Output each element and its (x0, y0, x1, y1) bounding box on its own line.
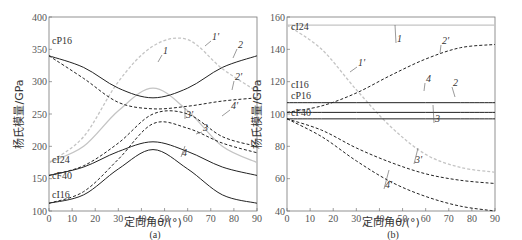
svg-text:2: 2 (453, 77, 458, 88)
svg-text:60: 60 (183, 213, 193, 224)
svg-text:1': 1' (358, 57, 366, 68)
series-4 (49, 150, 257, 204)
svg-text:0: 0 (285, 213, 290, 224)
svg-text:30: 30 (113, 213, 123, 224)
material-label: cP16 (52, 35, 72, 46)
material-label: cI16 (291, 79, 309, 90)
material-label: cI24 (52, 154, 70, 165)
x-axis-label: 定向角θ/(°) (124, 215, 182, 229)
svg-text:2': 2' (235, 71, 243, 82)
svg-text:2: 2 (238, 39, 243, 50)
svg-text:30: 30 (351, 213, 361, 224)
panel-caption: (b) (387, 229, 399, 240)
svg-text:160: 160 (270, 12, 285, 23)
material-label: cI16 (52, 189, 70, 200)
svg-text:1': 1' (212, 31, 220, 42)
svg-text:80: 80 (467, 213, 477, 224)
svg-text:80: 80 (229, 213, 239, 224)
svg-text:60: 60 (275, 173, 285, 184)
material-label: cF40 (291, 107, 311, 118)
series-3-prime (287, 119, 495, 184)
svg-text:3: 3 (202, 122, 208, 133)
svg-text:3': 3' (185, 109, 194, 120)
svg-text:250: 250 (32, 109, 47, 120)
panel-caption: (a) (149, 229, 160, 240)
svg-text:4: 4 (426, 73, 431, 84)
svg-text:90: 90 (252, 213, 262, 224)
series-3-prime (49, 111, 257, 176)
youngs-modulus-charts: 0102030405060708090100150200250300350400… (0, 0, 522, 240)
series-4-prime (287, 119, 495, 211)
svg-text:20: 20 (328, 213, 338, 224)
svg-text:140: 140 (270, 44, 285, 55)
series-2-prime (49, 56, 257, 109)
material-label: cI24 (291, 21, 309, 32)
svg-text:90: 90 (490, 213, 500, 224)
svg-text:70: 70 (444, 213, 454, 224)
material-label: cP16 (291, 90, 311, 101)
svg-text:70: 70 (206, 213, 216, 224)
svg-text:1: 1 (163, 45, 168, 56)
svg-text:200: 200 (32, 141, 47, 152)
svg-text:100: 100 (32, 206, 47, 217)
series-4-prime (49, 122, 257, 203)
series-2 (49, 56, 257, 98)
svg-text:10: 10 (67, 213, 77, 224)
svg-text:20: 20 (90, 213, 100, 224)
series-3 (49, 142, 257, 176)
y-axis-label: 杨氏模量/GPa (12, 79, 26, 148)
series-1-prime (287, 25, 495, 172)
svg-text:1: 1 (397, 33, 402, 44)
svg-text:100: 100 (270, 109, 285, 120)
svg-text:60: 60 (421, 213, 431, 224)
svg-text:2': 2' (442, 35, 450, 46)
svg-text:40: 40 (275, 206, 285, 217)
chart-panel-a: 0102030405060708090100150200250300350400… (12, 12, 262, 240)
chart-panel-b: 0102030405060708090406080100120140160cI2… (250, 12, 500, 240)
series-1 (49, 88, 257, 162)
svg-text:80: 80 (275, 141, 285, 152)
x-axis-label: 定向角θ/(°) (362, 215, 420, 229)
svg-text:10: 10 (305, 213, 315, 224)
y-axis-label: 杨氏模量/GPa (250, 79, 264, 148)
svg-text:3: 3 (434, 113, 440, 124)
material-label: cF40 (52, 170, 72, 181)
svg-text:350: 350 (32, 44, 47, 55)
svg-text:0: 0 (47, 213, 52, 224)
svg-text:300: 300 (32, 76, 47, 87)
svg-text:120: 120 (270, 76, 285, 87)
svg-text:4': 4' (231, 100, 239, 111)
svg-text:150: 150 (32, 173, 47, 184)
svg-text:400: 400 (32, 12, 47, 23)
